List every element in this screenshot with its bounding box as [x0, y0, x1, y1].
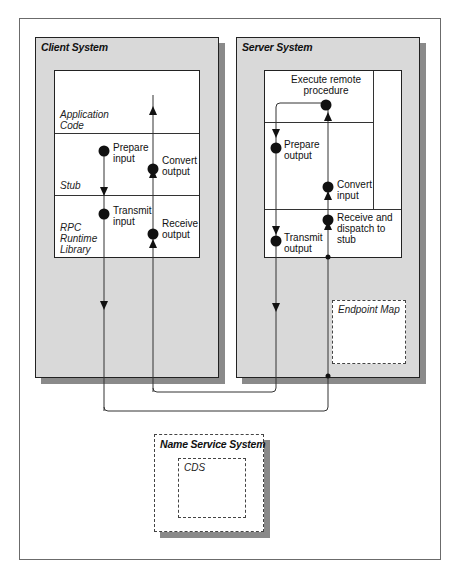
step-16-label: Transmit output — [284, 232, 323, 254]
step-11 — [98, 206, 110, 224]
step-15 — [270, 140, 282, 158]
flow-lines — [0, 0, 456, 577]
step-10-label: Prepare input — [113, 142, 149, 164]
step-number-circle-icon — [320, 99, 332, 111]
step-13 — [322, 179, 334, 197]
step-13-label: Convert input — [337, 179, 372, 201]
step-12 — [322, 212, 334, 230]
step-17 — [147, 226, 159, 244]
step-12-label: Receive and dispatch to stub — [337, 212, 393, 245]
step-16 — [270, 233, 282, 251]
step-number-circle-icon — [322, 181, 334, 193]
step-10 — [98, 143, 110, 161]
step-11-label: Transmit input — [113, 205, 152, 227]
step-17-label: Receive output — [162, 218, 198, 240]
step-number-circle-icon — [270, 235, 282, 247]
step-number-circle-icon — [270, 142, 282, 154]
step-15-label: Prepare output — [284, 139, 320, 161]
step-14 — [320, 97, 332, 115]
step-18-label: Convert output — [162, 155, 197, 177]
step-number-circle-icon — [322, 214, 334, 226]
step-18 — [147, 161, 159, 179]
step-number-circle-icon — [147, 163, 159, 175]
diagram-canvas: Client System Application Code Stub RPC … — [0, 0, 456, 577]
step-number-circle-icon — [147, 228, 159, 240]
step-number-circle-icon — [98, 208, 110, 220]
step-number-circle-icon — [98, 145, 110, 157]
